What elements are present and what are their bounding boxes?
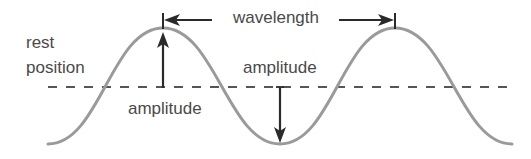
rest-position-label-line1: rest <box>26 33 54 53</box>
wave-diagram: rest position wavelength amplitude ampli… <box>0 0 531 159</box>
wavelength-label: wavelength <box>233 8 319 28</box>
amplitude-arrow-up-icon <box>157 32 169 88</box>
wavelength-arrow-left-icon <box>164 14 212 26</box>
amplitude-trough-label: amplitude <box>243 58 317 78</box>
rest-position-label-line2: position <box>26 58 85 78</box>
amplitude-arrow-down-icon <box>274 87 286 143</box>
amplitude-crest-label: amplitude <box>128 99 202 119</box>
wavelength-arrow-right-icon <box>339 14 394 26</box>
